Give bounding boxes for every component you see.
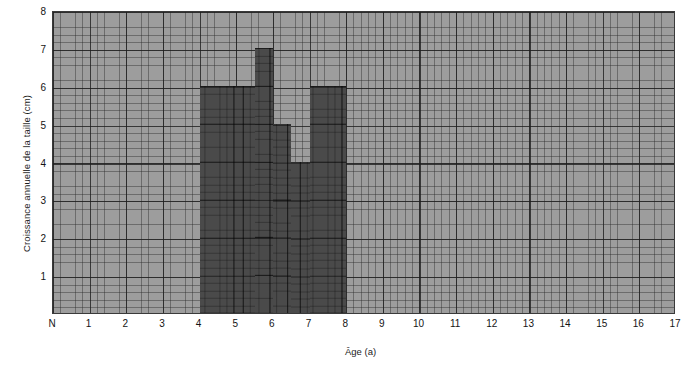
- graph-paper-grid: [53, 12, 674, 313]
- x-axis-title: Âge (a): [0, 346, 691, 357]
- bar-grid-overlay: [291, 162, 309, 314]
- x-tick-label: 12: [472, 318, 512, 329]
- bar-segment: [291, 162, 309, 314]
- x-axis-title-text: Âge (a): [345, 346, 376, 357]
- bar-grid-overlay: [255, 48, 273, 313]
- y-tick-label: 5: [20, 119, 46, 130]
- x-tick-label: 3: [142, 318, 182, 329]
- x-tick-label: 2: [105, 318, 145, 329]
- bar-grid-overlay: [310, 86, 347, 313]
- bar-grid-overlay: [273, 124, 291, 313]
- plot-area: [52, 11, 675, 314]
- x-tick-label: 5: [215, 318, 255, 329]
- y-axis-tick-labels: 12345678: [14, 11, 46, 314]
- x-tick-label: 1: [69, 318, 109, 329]
- x-tick-label: N: [32, 318, 72, 329]
- y-tick-label: 2: [20, 233, 46, 244]
- x-tick-label: 13: [508, 318, 548, 329]
- x-tick-label: 9: [362, 318, 402, 329]
- x-tick-label: 17: [655, 318, 691, 329]
- y-tick-label: 1: [20, 271, 46, 282]
- x-tick-label: 14: [545, 318, 585, 329]
- bar-segment: [200, 86, 237, 313]
- x-tick-label: 15: [582, 318, 622, 329]
- y-tick-label: 4: [20, 157, 46, 168]
- x-axis-tick-labels: N1234567891011121314151617: [52, 318, 675, 334]
- bar-grid-overlay: [236, 86, 254, 313]
- y-tick-label: 8: [20, 6, 46, 17]
- bar-segment: [273, 124, 291, 313]
- growth-velocity-chart: Croissance annuelle de la taille (cm) 12…: [0, 0, 691, 373]
- x-tick-label: 6: [252, 318, 292, 329]
- y-tick-label: 3: [20, 195, 46, 206]
- x-tick-label: 11: [435, 318, 475, 329]
- page-top-margin: [0, 0, 691, 5]
- y-tick-label: 6: [20, 81, 46, 92]
- x-tick-label: 7: [289, 318, 329, 329]
- bar-grid-overlay: [200, 86, 237, 313]
- bar-segment: [310, 86, 347, 313]
- bar-segment: [255, 48, 273, 313]
- x-tick-label: 10: [398, 318, 438, 329]
- bar-segment: [236, 86, 254, 313]
- x-tick-label: 8: [325, 318, 365, 329]
- y-tick-label: 7: [20, 43, 46, 54]
- x-tick-label: 16: [618, 318, 658, 329]
- x-tick-label: 4: [179, 318, 219, 329]
